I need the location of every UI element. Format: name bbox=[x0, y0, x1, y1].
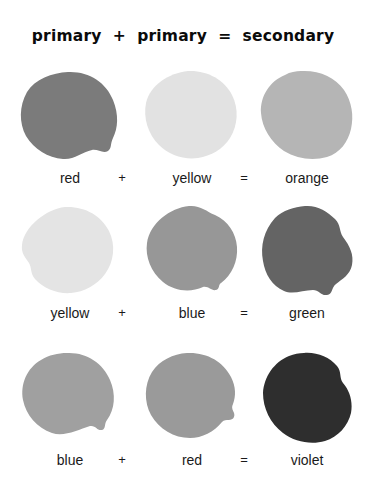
operator-plus: + bbox=[104, 450, 140, 470]
label-color-result: orange bbox=[255, 168, 359, 188]
paint-blob-yellow-2 bbox=[18, 205, 122, 297]
blob-shape bbox=[147, 206, 237, 291]
blob-shape bbox=[22, 207, 113, 293]
paint-blob-orange-1 bbox=[255, 70, 359, 162]
blob-band-3 bbox=[0, 352, 366, 444]
mixing-row-2: yellow + blue = green bbox=[0, 205, 366, 329]
mixing-row-3: blue + red = violet bbox=[0, 352, 366, 476]
paint-blob-red-3 bbox=[140, 352, 244, 444]
blob-band-2 bbox=[0, 205, 366, 297]
label-band-3: blue + red = violet bbox=[0, 450, 366, 476]
blob-shape bbox=[262, 206, 352, 295]
paint-blob-green-2 bbox=[255, 205, 359, 297]
paint-blob-violet-3 bbox=[255, 352, 359, 444]
mixing-row-1: red + yellow = orange bbox=[0, 70, 366, 194]
blob-shape bbox=[261, 71, 352, 159]
paint-blob-yellow-1 bbox=[140, 70, 244, 162]
label-band-1: red + yellow = orange bbox=[0, 168, 366, 194]
blob-shape bbox=[22, 353, 114, 434]
blob-band-1 bbox=[0, 70, 366, 162]
page-title: primary + primary = secondary bbox=[0, 27, 366, 45]
blob-shape bbox=[145, 71, 237, 159]
operator-plus: + bbox=[104, 303, 140, 323]
blob-shape bbox=[146, 353, 235, 438]
color-mixing-chart: primary + primary = secondary red bbox=[0, 0, 366, 482]
operator-plus: + bbox=[104, 168, 140, 188]
paint-blob-blue-3 bbox=[18, 352, 122, 444]
label-color-result: violet bbox=[255, 450, 359, 470]
paint-blob-red-1 bbox=[18, 70, 122, 162]
blob-shape bbox=[21, 72, 117, 159]
label-band-2: yellow + blue = green bbox=[0, 303, 366, 329]
paint-blob-blue-2 bbox=[140, 205, 244, 297]
label-color-result: green bbox=[255, 303, 359, 323]
blob-shape bbox=[263, 353, 352, 443]
